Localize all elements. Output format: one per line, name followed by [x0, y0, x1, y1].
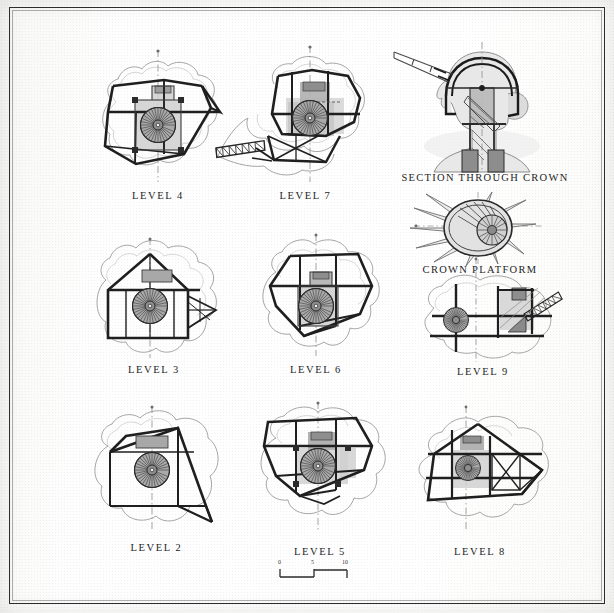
drawing-plate: LEVEL 4	[0, 0, 614, 613]
plate-frame-outer	[9, 7, 605, 604]
